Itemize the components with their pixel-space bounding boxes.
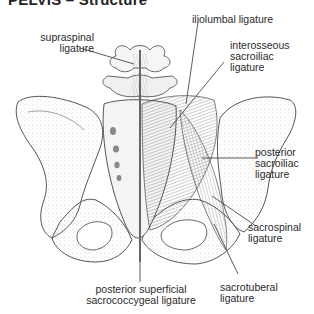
label-sacrotuberal-ligature: sacrotuberal ligature [220, 282, 278, 304]
label-iliolumbal-ligature: iliolumbal ligature [192, 14, 273, 25]
label-posterior-sacroiliac-ligature: posterior sacroiliac ligature [255, 147, 299, 180]
label-sacrospinal-ligature: sacrospinal ligature [248, 222, 301, 244]
label-supraspinal-ligature: supraspinal ligature [14, 32, 94, 54]
label-interosseous-sacroiliac-ligature: interosseous sacroiliac ligature [230, 40, 290, 73]
label-posterior-superficial-sacrococcygeal-ligature: posterior superficial sacrococcygeal lig… [74, 284, 208, 306]
